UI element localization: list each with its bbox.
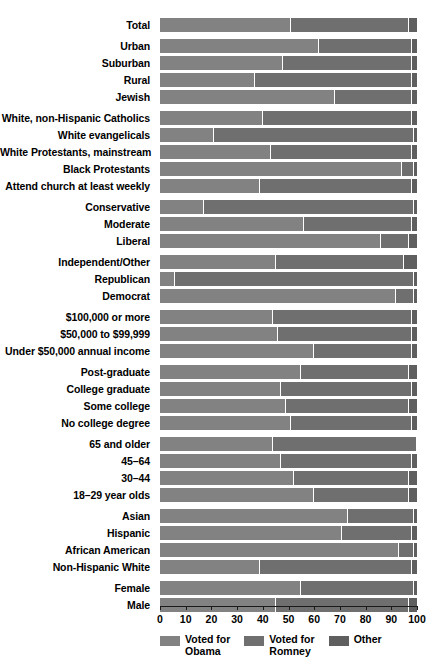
chart-row: No college degree <box>0 416 446 430</box>
bar-segment-other <box>414 200 417 214</box>
bar-segment-other <box>409 399 417 413</box>
bar-segment-obama <box>160 289 396 303</box>
bar-segment-other <box>412 327 417 341</box>
chart-row: Conservative <box>0 200 446 214</box>
bar-segment-obama <box>160 272 175 286</box>
bar-segment-other <box>412 73 417 87</box>
bar-group-income: $100,000 or more$50,000 to $99,999Under … <box>0 310 446 358</box>
stacked-bar <box>160 382 417 396</box>
bar-segment-obama <box>160 162 402 176</box>
bar-segment-other <box>412 526 417 540</box>
row-label: Under $50,000 annual income <box>0 344 150 358</box>
chart-row: 18–29 year olds <box>0 488 446 502</box>
axis-tick-label: 0 <box>157 613 163 625</box>
axis-tick <box>263 606 264 610</box>
row-label: $100,000 or more <box>0 310 150 324</box>
row-label: Black Protestants <box>0 162 150 176</box>
bar-segment-obama <box>160 416 291 430</box>
bar-segment-other <box>409 234 417 248</box>
chart-legend: Voted for ObamaVoted for RomneyOther <box>160 634 446 657</box>
bar-segment-other <box>409 18 417 32</box>
bar-segment-romney <box>283 56 412 70</box>
bar-segment-romney <box>291 18 409 32</box>
bar-segment-romney <box>396 289 414 303</box>
bar-segment-obama <box>160 39 319 53</box>
chart-row: Some college <box>0 399 446 413</box>
bar-segment-other <box>412 179 417 193</box>
bar-segment-obama <box>160 128 214 142</box>
chart-row: 30–44 <box>0 471 446 485</box>
bar-group-race-ethnicity: AsianHispanicAfrican AmericanNon-Hispani… <box>0 509 446 574</box>
bar-group-total: Total <box>0 18 446 32</box>
row-label: White Protestants, mainstream <box>0 145 150 159</box>
bar-segment-other <box>409 365 417 379</box>
axis-tick-label: 40 <box>257 613 269 625</box>
bar-segment-other <box>404 255 417 269</box>
stacked-bar <box>160 581 417 595</box>
bar-segment-other <box>414 128 417 142</box>
legend-item: Other <box>329 634 382 646</box>
bar-segment-obama <box>160 217 304 231</box>
bar-segment-obama <box>160 73 255 87</box>
bar-segment-obama <box>160 437 273 451</box>
stacked-bar <box>160 255 417 269</box>
chart-row: Hispanic <box>0 526 446 540</box>
row-label: Non-Hispanic White <box>0 560 150 574</box>
bar-segment-other <box>414 509 417 523</box>
chart-row: Under $50,000 annual income <box>0 344 446 358</box>
bar-segment-obama <box>160 365 301 379</box>
bar-segment-other <box>412 454 417 468</box>
stacked-bar <box>160 344 417 358</box>
bar-group-ideology: ConservativeModerateLiberal <box>0 200 446 248</box>
stacked-bar <box>160 365 417 379</box>
legend-label: Voted for Obama <box>185 634 230 657</box>
bar-segment-other <box>412 39 417 53</box>
bar-segment-romney <box>276 255 405 269</box>
bar-group-education: Post-graduateCollege graduateSome colleg… <box>0 365 446 430</box>
legend-swatch-other <box>329 636 349 646</box>
chart-row: Liberal <box>0 234 446 248</box>
stacked-bar <box>160 90 417 104</box>
bar-segment-obama <box>160 310 273 324</box>
chart-row: College graduate <box>0 382 446 396</box>
axis-tick-label: 10 <box>180 613 192 625</box>
bar-segment-obama <box>160 344 314 358</box>
bar-segment-romney <box>271 145 412 159</box>
bar-segment-other <box>414 289 417 303</box>
bar-segment-obama <box>160 526 342 540</box>
bar-group-gender: FemaleMale <box>0 581 446 612</box>
bar-group-religion: White, non-Hispanic CatholicsWhite evang… <box>0 111 446 193</box>
legend-label: Voted for Romney <box>269 634 314 657</box>
bar-segment-obama <box>160 382 281 396</box>
legend-item: Voted for Romney <box>244 634 314 657</box>
bar-group-party: Independent/OtherRepublicanDemocrat <box>0 255 446 303</box>
chart-row: Female <box>0 581 446 595</box>
stacked-bar <box>160 56 417 70</box>
bar-segment-romney <box>381 234 409 248</box>
row-label: 30–44 <box>0 471 150 485</box>
bar-segment-other <box>412 90 417 104</box>
chart-row: Independent/Other <box>0 255 446 269</box>
row-label: Hispanic <box>0 526 150 540</box>
bar-segment-obama <box>160 488 314 502</box>
row-label: Asian <box>0 509 150 523</box>
row-label: Republican <box>0 272 150 286</box>
bar-segment-romney <box>294 471 410 485</box>
legend-item: Voted for Obama <box>160 634 230 657</box>
chart-row: White Protestants, mainstream <box>0 145 446 159</box>
axis-tick <box>289 606 290 610</box>
legend-label: Other <box>354 634 382 646</box>
bar-group-age: 65 and older45–6430–4418–29 year olds <box>0 437 446 502</box>
row-label: Attend church at least weekly <box>0 179 150 193</box>
bar-segment-other <box>412 560 417 574</box>
row-label: Post-graduate <box>0 365 150 379</box>
bar-segment-romney <box>286 399 409 413</box>
bar-segment-romney <box>319 39 412 53</box>
bar-segment-romney <box>304 217 412 231</box>
bar-segment-obama <box>160 598 276 612</box>
row-label: African American <box>0 543 150 557</box>
chart-row: Republican <box>0 272 446 286</box>
bar-segment-other <box>414 162 417 176</box>
bar-segment-other <box>412 56 417 70</box>
stacked-bar-chart: TotalUrbanSuburbanRuralJewishWhite, non-… <box>0 0 446 667</box>
